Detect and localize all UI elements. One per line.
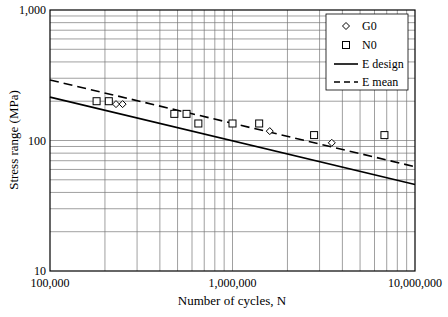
y-tick-label: 1,000 [19, 3, 46, 17]
n0-point [195, 120, 202, 127]
n0-point [256, 120, 263, 127]
n0-point [171, 110, 178, 117]
y-tick-labels: 101001,000 [19, 3, 46, 278]
y-axis-label: Stress range (MPa) [6, 90, 21, 190]
g0-point [119, 101, 126, 108]
n0-point [311, 132, 318, 139]
n0-point [93, 98, 100, 105]
n0-point [183, 110, 190, 117]
legend-square-icon [343, 42, 350, 49]
x-tick-labels: 100,0001,000,00010,000,000 [31, 276, 443, 290]
y-tick-label: 100 [28, 134, 46, 148]
legend-label: G0 [362, 19, 377, 33]
n0-point [229, 120, 236, 127]
legend-label: N0 [362, 38, 377, 52]
sn-chart: 101001,000 100,0001,000,00010,000,000 Nu… [0, 0, 448, 317]
legend-label: E mean [362, 75, 398, 89]
x-tick-label: 1,000,000 [209, 276, 257, 290]
legend-label: E design [362, 57, 404, 71]
n0-point [105, 98, 112, 105]
n0-point [381, 132, 388, 139]
x-tick-label: 100,000 [31, 276, 70, 290]
x-axis-label: Number of cycles, N [178, 293, 287, 308]
legend: G0N0E designE mean [326, 14, 408, 90]
x-tick-label: 10,000,000 [388, 276, 442, 290]
